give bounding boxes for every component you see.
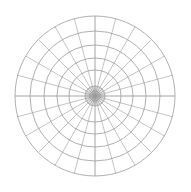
grid-spoke (55, 27, 95, 96)
grid-spoke (26, 56, 95, 96)
grid-spoke (74, 96, 95, 173)
grid-spoke (18, 96, 95, 117)
grid-spoke (95, 96, 152, 153)
grid-spoke (26, 96, 95, 136)
grid-spoke (95, 56, 164, 96)
grid-spoke (38, 39, 95, 96)
grid-spoke (95, 96, 164, 136)
grid-spoke (55, 96, 95, 165)
grid-spoke (18, 75, 95, 96)
grid-spoke (95, 96, 135, 165)
grid-spoke (95, 19, 116, 96)
grid-spoke (95, 27, 135, 96)
grid-spoke (95, 96, 172, 117)
radial-spokes (15, 16, 175, 176)
polar-grid-diagram (0, 0, 191, 192)
grid-spoke (74, 19, 95, 96)
grid-spoke (38, 96, 95, 153)
grid-spoke (95, 39, 152, 96)
grid-spoke (95, 96, 116, 173)
grid-spoke (95, 75, 172, 96)
